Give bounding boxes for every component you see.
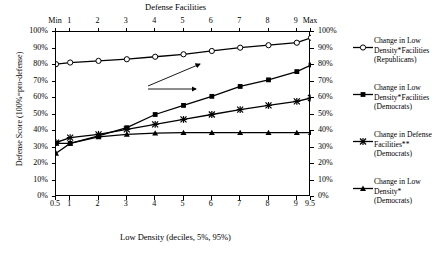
legend-item-2[interactable]: Change in DefenseFacilities**(Democrats) [352, 130, 440, 159]
x-tick-label-top: 2 [96, 17, 100, 25]
bottom-axis-title: Low Density (deciles, 5%, 95%) [120, 233, 231, 242]
data-point-marker [361, 92, 366, 97]
y-tick-label-left: 20% [33, 159, 48, 167]
y-tick-label-right: 50% [318, 110, 333, 118]
legend-item-3[interactable]: Change in LowDensity*(Democrats) [352, 177, 440, 206]
y-tick-right [310, 196, 314, 197]
y-tick-left [52, 97, 56, 98]
x-tick-label-bottom: 1 [67, 200, 71, 208]
y-tick-label-right: 30% [318, 143, 333, 151]
x-tick-top [211, 28, 212, 32]
y-tick-right [310, 180, 314, 181]
data-point-marker [153, 54, 158, 59]
legend-label-line: Facilities** [374, 140, 440, 150]
data-point-marker [209, 94, 214, 99]
x-tick-label-bottom: 2 [96, 200, 100, 208]
y-tick-label-left: 40% [33, 126, 48, 134]
y-tick-right [310, 48, 314, 49]
x-tick-label-top: 8 [266, 17, 270, 25]
y-tick-label-left: 100% [29, 27, 48, 35]
x-tick-top [154, 28, 155, 32]
x-tick-top [296, 28, 297, 32]
data-point-marker [265, 102, 272, 109]
chart-figure: Defense Facilities Defense Score (100%=p… [0, 0, 440, 253]
y-tick-label-left: 90% [33, 44, 48, 52]
y-axis-label: Defense Score (100%=pro-defense) [16, 34, 24, 184]
y-tick-left [52, 114, 56, 115]
legend-label-line: Change in Low [374, 177, 440, 187]
data-point-marker [181, 52, 186, 57]
x-tick-label-top: 9 [294, 17, 298, 25]
x-tick-label-bottom: 9 [294, 200, 298, 208]
legend-label-line: (Democrats) [374, 149, 440, 159]
y-tick-left [52, 130, 56, 131]
y-tick-label-right: 60% [318, 93, 333, 101]
legend-label-line: Density*Facilities [374, 46, 440, 56]
y-tick-label-right: 0% [318, 192, 329, 200]
data-point-marker [238, 45, 243, 50]
y-tick-right [310, 130, 314, 131]
x-tick-label-top: Max [303, 17, 318, 25]
series-line [56, 38, 311, 64]
x-tick-label-bottom: 7 [237, 200, 241, 208]
y-tick-label-right: 100% [318, 27, 337, 35]
data-point-marker [308, 35, 311, 40]
y-tick-label-left: 10% [33, 176, 48, 184]
legend-label-line: (Democrats) [374, 102, 440, 112]
x-tick-label-bottom: 5 [181, 200, 185, 208]
x-tick-top [69, 28, 70, 32]
x-tick-label-bottom: 3 [124, 200, 128, 208]
x-tick-label-top: 3 [124, 17, 128, 25]
y-tick-right [310, 163, 314, 164]
x-tick-top [268, 28, 269, 32]
legend-label-line: (Democrats) [374, 196, 440, 206]
data-point-marker [56, 62, 59, 67]
y-tick-label-left: 30% [33, 143, 48, 151]
x-tick-top [126, 28, 127, 32]
data-point-marker [237, 106, 244, 113]
legend-label-line: Change in Defense [374, 130, 440, 140]
data-point-marker [360, 138, 367, 145]
data-point-marker [68, 60, 73, 65]
y-tick-label-left: 70% [33, 77, 48, 85]
y-tick-left [52, 81, 56, 82]
data-point-marker [266, 77, 271, 82]
data-point-marker [208, 111, 215, 118]
y-tick-label-right: 20% [318, 159, 333, 167]
y-tick-right [310, 97, 314, 98]
x-tick-top [55, 28, 56, 32]
plot-canvas [56, 32, 311, 197]
x-tick-label-top: 1 [67, 17, 71, 25]
y-tick-left [52, 31, 56, 32]
y-tick-right [310, 81, 314, 82]
legend-marker-filled-triangle-icon [352, 179, 374, 188]
data-point-marker [153, 112, 158, 117]
x-tick-top [183, 28, 184, 32]
legend-item-0[interactable]: Change in LowDensity*Facilities(Republic… [352, 36, 440, 65]
x-tick-label-bottom: 6 [209, 200, 213, 208]
y-tick-left [52, 163, 56, 164]
plot-area [55, 31, 310, 196]
y-tick-label-left: 50% [33, 110, 48, 118]
data-point-marker [294, 40, 299, 45]
data-point-marker [124, 57, 129, 62]
legend-label-line: Density*Facilities [374, 93, 440, 103]
legend-label-line: Change in Low [374, 83, 440, 93]
legend-label-line: (Republicans) [374, 55, 440, 65]
x-tick-label-bottom: 0.5 [50, 200, 60, 208]
y-tick-left [52, 196, 56, 197]
y-tick-right [310, 64, 314, 65]
x-tick-label-top: 4 [152, 17, 156, 25]
y-tick-label-left: 80% [33, 60, 48, 68]
legend-item-1[interactable]: Change in LowDensity*Facilities(Democrat… [352, 83, 440, 112]
x-tick-label-top: Min [48, 17, 61, 25]
x-tick-label-top: 6 [209, 17, 213, 25]
y-tick-label-left: 0% [37, 192, 48, 200]
top-axis-title: Defense Facilities [145, 3, 206, 12]
y-tick-left [52, 180, 56, 181]
data-point-marker [360, 44, 365, 49]
data-point-marker [181, 103, 186, 108]
legend-marker-filled-square-icon [352, 85, 374, 94]
series-3 [56, 130, 311, 156]
data-point-marker [238, 84, 243, 89]
